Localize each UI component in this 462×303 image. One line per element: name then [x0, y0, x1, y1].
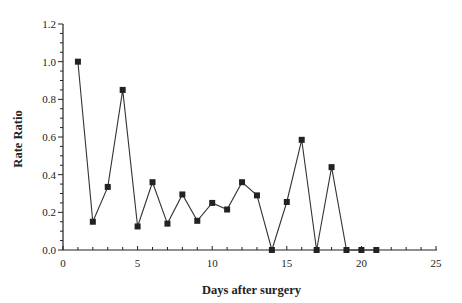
data-point-marker	[239, 179, 245, 185]
data-point-marker	[105, 184, 111, 190]
data-point-marker	[179, 191, 185, 197]
data-point-marker	[329, 164, 335, 170]
x-tick-label: 15	[281, 257, 293, 269]
data-point-marker	[299, 137, 305, 143]
y-tick-label: 0.8	[42, 93, 56, 105]
data-point-marker	[135, 223, 141, 229]
data-point-marker	[194, 218, 200, 224]
y-tick-label: 1.0	[42, 56, 56, 68]
data-point-marker	[314, 247, 320, 253]
data-point-marker	[373, 247, 379, 253]
data-point-marker	[284, 199, 290, 205]
data-point-marker	[343, 247, 349, 253]
data-point-marker	[75, 59, 81, 65]
line-chart: 0510152025 0.00.20.40.60.81.01.2 Days af…	[0, 0, 462, 303]
x-tick-label: 10	[207, 257, 219, 269]
x-tick-label: 20	[356, 257, 368, 269]
data-point-marker	[209, 200, 215, 206]
plot-area	[75, 59, 379, 253]
y-tick-label: 1.2	[42, 18, 56, 30]
y-tick-label: 0.4	[42, 169, 56, 181]
y-tick-label: 0.2	[42, 206, 56, 218]
x-axis-title: Days after surgery	[202, 283, 302, 297]
y-ticks: 0.00.20.40.60.81.01.2	[42, 18, 63, 256]
data-point-marker	[224, 207, 230, 213]
data-point-marker	[269, 247, 275, 253]
data-point-marker	[164, 221, 170, 227]
y-axis-title: Rate Ratio	[11, 110, 25, 167]
x-tick-label: 25	[431, 257, 443, 269]
x-tick-label: 5	[135, 257, 141, 269]
y-tick-label: 0.6	[42, 131, 56, 143]
y-tick-label: 0.0	[42, 244, 56, 256]
data-point-marker	[90, 219, 96, 225]
axes: 0510152025 0.00.20.40.60.81.01.2	[42, 18, 442, 269]
data-point-marker	[358, 247, 364, 253]
x-tick-label: 0	[60, 257, 66, 269]
data-point-marker	[254, 192, 260, 198]
data-point-marker	[150, 179, 156, 185]
data-point-marker	[120, 87, 126, 93]
